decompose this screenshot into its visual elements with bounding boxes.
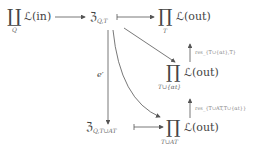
coproduct-index: Q — [12, 26, 17, 33]
node-frak-qtat: ℨQ,T∪AT — [86, 120, 117, 133]
diagram-arrows — [0, 0, 259, 155]
product-symbol: ∏ — [158, 7, 172, 25]
product-index: T — [163, 27, 167, 34]
product-index: T∪{αt} — [158, 83, 181, 90]
frak-subscript: Q,T — [97, 17, 108, 24]
product-symbol: ∏ — [166, 63, 180, 81]
node-frak-qt: ℨQ,T — [90, 10, 108, 23]
arrow-label-e-prime: e′ — [97, 70, 104, 79]
arrow-label-res2: res_{T∪AT,T∪{αt}} — [195, 105, 246, 111]
coproduct-symbol: ∐ — [7, 7, 21, 25]
frak-symbol: ℨ — [90, 10, 97, 23]
node-l-out-t: ℒ(out) — [176, 10, 211, 23]
product-symbol: ∏ — [166, 118, 180, 136]
node-l-in: ℒ(in) — [24, 10, 51, 23]
product-index: T∪AT — [161, 138, 178, 145]
frak-symbol: ℨ — [86, 120, 93, 133]
node-l-out-talpha: ℒ(out) — [184, 66, 219, 79]
frak-subscript: Q,T∪AT — [93, 127, 117, 134]
node-l-out-tat: ℒ(out) — [184, 121, 219, 134]
arrow-label-res1: res_{T∪{αt},T} — [195, 49, 236, 55]
